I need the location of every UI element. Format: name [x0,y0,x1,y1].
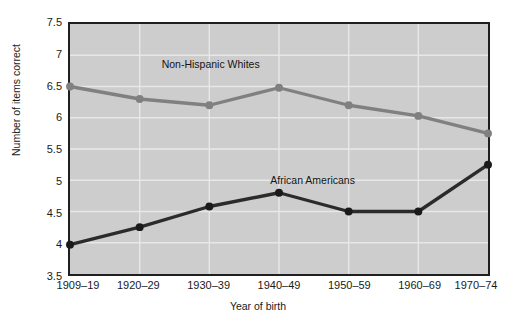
y-tick-label: 4 [56,239,62,250]
y-tick-label: 6 [56,112,62,123]
plot-area: Non-Hispanic WhitesAfrican Americans [68,22,490,276]
y-tick-label: 5 [56,175,62,186]
y-tick-label: 6.5 [47,80,62,91]
x-tick-label: 1960–69 [398,280,441,291]
y-axis-tick-labels: 3.544.555.566.577.5 [0,22,68,276]
x-tick-label: 1970–74 [455,280,498,291]
x-tick-label: 1930–39 [187,280,230,291]
y-tick-label: 5.5 [47,144,62,155]
x-axis-tick-labels: 1909–191920–291930–391940–491950–591960–… [68,280,490,296]
x-tick-label: 1909–19 [57,280,100,291]
chart-figure: Number of items correct 3.544.555.566.57… [0,0,516,332]
y-tick-label: 4.5 [47,207,62,218]
y-tick-label: 7 [56,48,62,59]
series-annotations: Non-Hispanic WhitesAfrican Americans [70,24,488,274]
x-tick-label: 1920–29 [117,280,160,291]
series-label-1: African Americans [270,174,355,186]
y-tick-label: 7.5 [47,17,62,28]
x-tick-label: 1940–49 [258,280,301,291]
x-axis-title: Year of birth [0,300,516,312]
series-label-0: Non-Hispanic Whites [162,58,260,70]
x-tick-label: 1950–59 [328,280,371,291]
